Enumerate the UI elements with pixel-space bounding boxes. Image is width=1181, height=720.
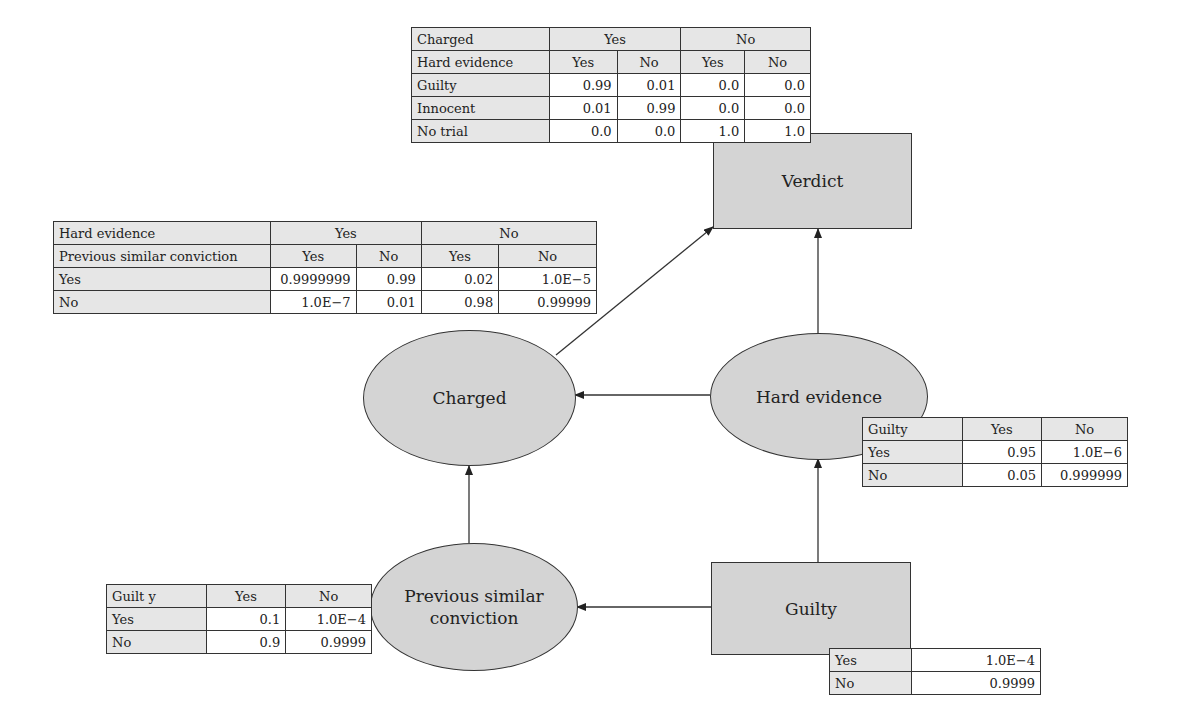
cpt-value: 0.99: [356, 268, 421, 291]
node-previous-conviction-label-1: Previous similar: [404, 585, 543, 607]
cpt-row-label: No: [54, 291, 271, 314]
cpt-value: 1.0E−4: [286, 608, 372, 631]
cpt-header-cell: No: [617, 51, 681, 74]
cpt-header-cell: Yes: [549, 51, 617, 74]
node-hard-evidence-label: Hard evidence: [756, 386, 882, 408]
cpt-value: 0.1: [206, 608, 286, 631]
cpt-value: 0.9999: [911, 672, 1040, 695]
cpt-header-cell: No: [1042, 418, 1128, 441]
cpt-value: 0.0: [681, 97, 745, 120]
cpt-header-label: Hard evidence: [54, 222, 271, 245]
cpt-value: 0.99: [617, 97, 681, 120]
node-charged: Charged: [363, 330, 576, 466]
node-charged-label: Charged: [432, 387, 506, 409]
cpt-row-label: No trial: [412, 120, 550, 143]
cpt-value: 1.0: [745, 120, 811, 143]
cpt-value: 0.0: [745, 74, 811, 97]
cpt-value: 0.95: [962, 441, 1042, 464]
node-guilty: Guilty: [711, 562, 911, 655]
cpt-value: 0.0: [549, 120, 617, 143]
node-previous-similar-conviction: Previous similar conviction: [370, 543, 578, 671]
cpt-value: 0.01: [356, 291, 421, 314]
cpt-value: 0.01: [549, 97, 617, 120]
cpt-hard-evidence: Guilty Yes No Yes 0.95 1.0E−6 No 0.05 0.…: [862, 417, 1128, 487]
cpt-value: 0.9: [206, 631, 286, 654]
cpt-row-label: Yes: [54, 268, 271, 291]
cpt-row-label: Guilty: [412, 74, 550, 97]
table-row: No 1.0E−7 0.01 0.98 0.99999: [54, 291, 597, 314]
cpt-header-label: Charged: [412, 28, 550, 51]
cpt-header-label: Hard evidence: [412, 51, 550, 74]
cpt-guilty: Yes 1.0E−4 No 0.9999: [829, 648, 1041, 695]
node-verdict-label: Verdict: [782, 170, 844, 192]
cpt-header-cell: No: [681, 28, 811, 51]
cpt-header-cell: Yes: [421, 245, 498, 268]
cpt-row-label: No: [830, 672, 912, 695]
cpt-value: 0.98: [421, 291, 498, 314]
cpt-header-cell: No: [286, 585, 372, 608]
cpt-header-label: Previous similar conviction: [54, 245, 271, 268]
table-row: No 0.9 0.9999: [107, 631, 372, 654]
table-row: Yes 1.0E−4: [830, 649, 1041, 672]
cpt-row-label: No: [863, 464, 963, 487]
cpt-value: 0.99999: [499, 291, 597, 314]
cpt-header-cell: Yes: [681, 51, 745, 74]
cpt-value: 0.0: [617, 120, 681, 143]
node-guilty-label: Guilty: [785, 598, 837, 620]
cpt-verdict: Charged Yes No Hard evidence Yes No Yes …: [411, 27, 811, 143]
table-row: Innocent 0.01 0.99 0.0 0.0: [412, 97, 811, 120]
cpt-value: 0.0: [745, 97, 811, 120]
cpt-value: 0.999999: [1042, 464, 1128, 487]
cpt-previous-similar-conviction: Guilt y Yes No Yes 0.1 1.0E−4 No 0.9 0.9…: [106, 584, 372, 654]
cpt-value: 0.9999999: [270, 268, 356, 291]
cpt-header-cell: No: [745, 51, 811, 74]
cpt-value: 0.01: [617, 74, 681, 97]
cpt-value: 0.02: [421, 268, 498, 291]
cpt-value: 0.99: [549, 74, 617, 97]
cpt-value: 0.05: [962, 464, 1042, 487]
cpt-value: 1.0E−7: [270, 291, 356, 314]
cpt-header-label: Guilty: [863, 418, 963, 441]
cpt-value: 1.0: [681, 120, 745, 143]
cpt-header-cell: Yes: [206, 585, 286, 608]
cpt-charged: Hard evidence Yes No Previous similar co…: [53, 221, 597, 314]
cpt-header-cell: No: [421, 222, 596, 245]
table-row: No 0.05 0.999999: [863, 464, 1128, 487]
cpt-row-label: No: [107, 631, 207, 654]
cpt-header-cell: Yes: [270, 245, 356, 268]
cpt-header-cell: Yes: [270, 222, 421, 245]
cpt-value: 0.0: [681, 74, 745, 97]
table-row: No trial 0.0 0.0 1.0 1.0: [412, 120, 811, 143]
table-row: Yes 0.95 1.0E−6: [863, 441, 1128, 464]
node-verdict: Verdict: [713, 133, 912, 229]
table-row: Yes 0.1 1.0E−4: [107, 608, 372, 631]
cpt-header-cell: No: [356, 245, 421, 268]
table-row: No 0.9999: [830, 672, 1041, 695]
cpt-header-cell: Yes: [962, 418, 1042, 441]
cpt-header-cell: No: [499, 245, 597, 268]
node-previous-conviction-label-2: conviction: [404, 607, 543, 629]
table-row: Guilty 0.99 0.01 0.0 0.0: [412, 74, 811, 97]
cpt-header-cell: Yes: [549, 28, 681, 51]
cpt-value: 1.0E−5: [499, 268, 597, 291]
cpt-header-label: Guilt y: [107, 585, 207, 608]
cpt-value: 1.0E−6: [1042, 441, 1128, 464]
cpt-row-label: Yes: [863, 441, 963, 464]
cpt-row-label: Yes: [830, 649, 912, 672]
cpt-row-label: Innocent: [412, 97, 550, 120]
cpt-value: 1.0E−4: [911, 649, 1040, 672]
cpt-value: 0.9999: [286, 631, 372, 654]
cpt-row-label: Yes: [107, 608, 207, 631]
table-row: Yes 0.9999999 0.99 0.02 1.0E−5: [54, 268, 597, 291]
